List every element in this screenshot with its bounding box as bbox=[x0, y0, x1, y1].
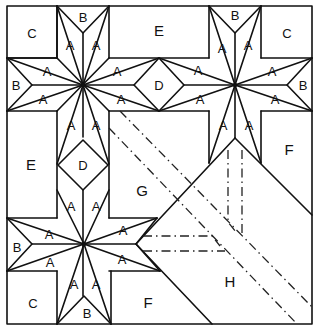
outer-frame bbox=[7, 6, 312, 324]
label-g-center: G bbox=[136, 182, 148, 199]
star-top-left bbox=[7, 6, 209, 218]
label-b-left-1: B bbox=[12, 78, 21, 93]
label-d-left: D bbox=[78, 158, 87, 173]
label-a-19: A bbox=[45, 227, 54, 242]
label-a-6: A bbox=[39, 92, 48, 107]
diagonal-lower bbox=[136, 244, 212, 324]
label-c-bl: C bbox=[28, 296, 37, 311]
label-a-11: A bbox=[268, 64, 277, 79]
quilt-block-diagram: CBAAEBAACBAAAADAAAABAAAAEDFGAAAABAAAACBF… bbox=[0, 0, 315, 331]
label-e-left: E bbox=[26, 156, 36, 173]
label-c-tr: C bbox=[282, 26, 291, 41]
label-a-18: A bbox=[92, 199, 101, 214]
label-a-16: A bbox=[245, 118, 254, 133]
label-a-22: A bbox=[118, 252, 127, 267]
label-f-right: F bbox=[284, 141, 293, 158]
label-a-1: A bbox=[66, 38, 75, 53]
label-h-right: H bbox=[225, 273, 236, 290]
label-a-24: A bbox=[92, 277, 101, 292]
label-a-23: A bbox=[70, 277, 79, 292]
diagonal-upper bbox=[136, 138, 235, 244]
label-a-2: A bbox=[92, 38, 101, 53]
label-a-4: A bbox=[244, 38, 253, 53]
label-a-13: A bbox=[67, 118, 76, 133]
diagonal-right bbox=[235, 138, 312, 215]
label-b-right-1: B bbox=[299, 78, 308, 93]
label-b-top-1: B bbox=[79, 10, 88, 25]
label-a-14: A bbox=[92, 118, 101, 133]
label-a-7: A bbox=[113, 64, 122, 79]
label-d-mid: D bbox=[154, 78, 163, 93]
label-a-5: A bbox=[43, 64, 52, 79]
label-a-10: A bbox=[196, 92, 205, 107]
label-b-bottom: B bbox=[83, 306, 92, 321]
label-a-17: A bbox=[67, 199, 76, 214]
label-a-3: A bbox=[218, 41, 227, 56]
piece-labels: CBAAEBAACBAAAADAAAABAAAAEDFGAAAABAAAACBF… bbox=[12, 8, 308, 321]
label-c-tl: C bbox=[27, 26, 36, 41]
label-a-8: A bbox=[117, 92, 126, 107]
label-b-left-2: B bbox=[13, 240, 22, 255]
label-e-top: E bbox=[154, 22, 164, 39]
label-a-21: A bbox=[46, 255, 55, 270]
label-a-20: A bbox=[119, 223, 128, 238]
label-a-9: A bbox=[194, 63, 203, 78]
label-f-bottom: F bbox=[143, 294, 152, 311]
label-a-15: A bbox=[219, 118, 228, 133]
label-a-12: A bbox=[271, 92, 280, 107]
label-b-top-2: B bbox=[231, 8, 240, 23]
